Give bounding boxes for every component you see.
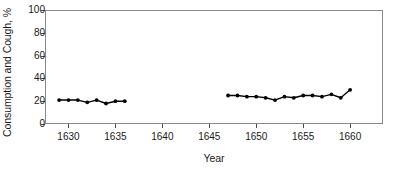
- data-point-marker: [339, 96, 343, 100]
- data-series: [226, 88, 352, 102]
- data-series: [57, 98, 127, 105]
- data-point-marker: [67, 98, 71, 102]
- data-point-marker: [348, 88, 352, 92]
- data-series-layer: [0, 0, 393, 173]
- data-point-marker: [95, 98, 99, 102]
- data-point-marker: [104, 102, 108, 106]
- data-point-marker: [329, 92, 333, 96]
- data-point-marker: [226, 94, 230, 98]
- data-point-marker: [76, 98, 80, 102]
- data-point-marker: [114, 99, 118, 103]
- data-point-marker: [85, 100, 89, 104]
- data-point-marker: [236, 94, 240, 98]
- x-axis-title: Year: [45, 152, 383, 165]
- data-point-marker: [301, 94, 305, 98]
- data-point-marker: [320, 95, 324, 99]
- data-point-marker: [254, 95, 258, 99]
- data-point-marker: [245, 95, 249, 99]
- data-point-marker: [57, 98, 61, 102]
- chart-container: Consumption and Cough, % 020406080100 16…: [0, 0, 393, 173]
- data-point-marker: [264, 96, 268, 100]
- data-point-marker: [283, 95, 287, 99]
- data-point-marker: [311, 94, 315, 98]
- data-point-marker: [273, 98, 277, 102]
- data-point-marker: [292, 96, 296, 100]
- data-point-marker: [123, 99, 127, 103]
